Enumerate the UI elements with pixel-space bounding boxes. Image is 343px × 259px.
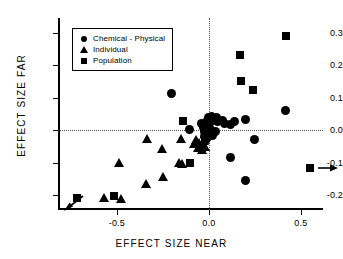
y-tick-label: 0.1 (294, 93, 343, 103)
data-point-circle (211, 127, 220, 136)
data-point-triangle (114, 158, 124, 167)
data-point-triangle (176, 134, 186, 143)
y-axis-title: EFFECT SIZE FAR (16, 21, 27, 191)
legend-item-label: Population (93, 56, 132, 65)
legend-item-label: Individual (93, 45, 128, 54)
data-point-square (237, 77, 245, 85)
x-tick-mark (301, 210, 302, 215)
data-point-triangle (141, 179, 151, 188)
scatter-plot-figure: 0.30.20.10.0-0.1-0.2 -0.50.00.5 EFFECT S… (0, 0, 343, 259)
data-point-circle (226, 153, 235, 162)
data-point-circle (241, 115, 250, 124)
y-tick-label: 0.2 (294, 60, 343, 70)
triangle-marker-icon (78, 46, 90, 53)
data-point-circle (167, 89, 176, 98)
x-tick-mark (117, 210, 118, 215)
data-point-square (179, 117, 187, 125)
legend-item-label: Chemical - Physical (93, 34, 165, 43)
data-point-triangle (158, 172, 168, 181)
legend-item-circle: Chemical - Physical (78, 33, 165, 44)
x-tick-label: 0.5 (294, 218, 307, 228)
y-tick-mark (53, 195, 58, 196)
data-point-triangle (157, 144, 167, 153)
data-point-square (110, 192, 118, 200)
data-point-circle (281, 106, 290, 115)
y-axis-spine (58, 18, 60, 210)
y-tick-label: -0.2 (294, 190, 343, 200)
data-point-triangle (142, 134, 152, 143)
data-point-circle (250, 135, 259, 144)
data-point-square (236, 51, 244, 59)
y-tick-label: 0.0 (294, 125, 343, 135)
legend: Chemical - PhysicalIndividualPopulation (72, 28, 173, 71)
data-point-triangle (99, 193, 109, 202)
data-point-circle (185, 125, 194, 134)
y-tick-mark (53, 130, 58, 131)
data-point-circle (241, 176, 250, 185)
y-tick-label: 0.3 (294, 28, 343, 38)
y-tick-mark (53, 65, 58, 66)
x-tick-mark (209, 210, 210, 215)
circle-marker-icon (78, 36, 90, 42)
y-tick-label: -0.1 (294, 158, 343, 168)
data-point-square (282, 32, 290, 40)
y-tick-mark (53, 33, 58, 34)
y-tick-mark (53, 98, 58, 99)
x-tick-label: 0.0 (202, 218, 215, 228)
legend-item-triangle: Individual (78, 44, 165, 55)
data-point-square (249, 86, 257, 94)
x-axis-spine (58, 208, 323, 210)
y-tick-mark (53, 163, 58, 164)
square-marker-icon (78, 58, 90, 64)
data-point-circle (230, 117, 239, 126)
x-tick-label: -0.5 (109, 218, 125, 228)
legend-item-square: Population (78, 55, 165, 66)
data-point-square (198, 145, 206, 153)
x-axis-title: EFFECT SIZE NEAR (0, 238, 343, 249)
data-point-square (186, 159, 194, 167)
